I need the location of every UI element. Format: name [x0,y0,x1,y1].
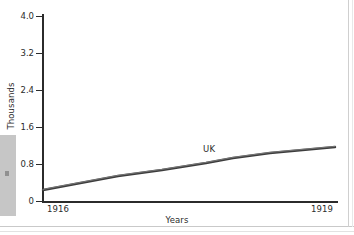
series-uk-line [0,0,354,235]
line-chart: 4.0 3.2 2.4 1.6 0.8 0 Thousands UK 1916 … [0,0,354,235]
x-axis-tick-label: 1919 [302,204,342,214]
x-axis-tick-label: 1916 [38,204,78,214]
series-label-uk: UK [203,144,215,154]
page-right-divider [348,0,349,227]
page-right-divider-secondary [352,0,353,227]
figure-page: 4.0 3.2 2.4 1.6 0.8 0 Thousands UK 1916 … [0,0,354,235]
page-bottom-divider [0,226,354,227]
series-uk-polyline [43,147,335,190]
x-axis-title: Years [0,215,354,225]
page-bottom-divider-secondary [0,231,354,232]
